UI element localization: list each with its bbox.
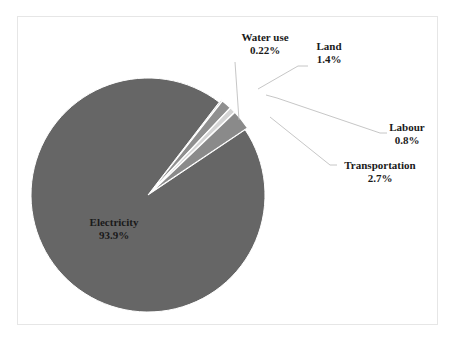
label-electricity-name: Electricity [90, 216, 139, 228]
leader-labour [266, 95, 387, 133]
label-transport-name: Transportation [344, 159, 415, 171]
label-land-value: 1.4% [317, 53, 342, 65]
label-transport-value: 2.7% [368, 172, 393, 184]
pie-chart: Water use 0.22% Land 1.4% Labour 0.8% Tr… [0, 0, 453, 340]
leader-water [235, 62, 239, 120]
label-water-value: 0.22% [250, 44, 280, 56]
label-land-name: Land [316, 40, 341, 52]
leader-land [258, 66, 308, 89]
pie-slices [31, 78, 265, 312]
leader-transport [270, 117, 337, 165]
label-water-name: Water use [241, 31, 288, 43]
label-electricity-value: 93.9% [99, 229, 129, 241]
leader-lines [235, 62, 387, 165]
label-labour-value: 0.8% [395, 134, 420, 146]
label-labour-name: Labour [389, 121, 425, 133]
